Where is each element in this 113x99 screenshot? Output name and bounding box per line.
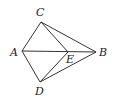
segment-CE	[41, 22, 68, 52]
label-B: B	[98, 46, 107, 59]
segment-DE	[40, 52, 68, 82]
segment-CA	[22, 22, 41, 51]
segment-AD	[22, 51, 40, 82]
label-E: E	[65, 53, 74, 66]
segment-AB	[22, 51, 96, 52]
label-A: A	[9, 46, 18, 59]
label-D: D	[34, 85, 44, 98]
segment-CB	[41, 22, 96, 52]
label-C: C	[36, 6, 45, 19]
geometry-diagram: C A B E D	[0, 0, 113, 99]
segments	[22, 22, 96, 82]
